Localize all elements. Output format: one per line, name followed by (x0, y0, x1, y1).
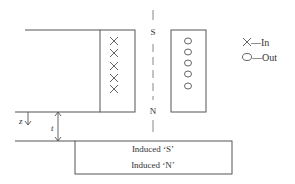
cross-icon (243, 38, 251, 46)
legend-out-label: —Out (251, 52, 277, 63)
z-label: z (18, 116, 23, 126)
induced-n-label: Induced ‘N’ (131, 160, 175, 170)
circle-icon (185, 83, 192, 89)
cross-icon (110, 62, 118, 70)
legend-in: —In (243, 37, 269, 48)
cross-icon (110, 74, 118, 82)
t-label: t (51, 123, 54, 133)
cross-icon (110, 85, 118, 93)
circle-icon (185, 49, 192, 55)
magnetic-levitation-diagram: S N —In —Out z t Induced ‘S’ Induced ‘N’ (0, 0, 295, 184)
legend: —In —Out (243, 37, 278, 63)
left-coil-symbols (110, 37, 118, 93)
induced-s-label: Induced ‘S’ (132, 144, 174, 154)
circle-icon (185, 60, 192, 66)
circle-icon (185, 38, 192, 44)
cross-icon (110, 49, 118, 57)
legend-out: —Out (243, 52, 278, 63)
circle-icon (243, 54, 252, 61)
pole-s-label: S (150, 27, 155, 37)
right-coil-symbols (185, 38, 192, 89)
left-coil-box (100, 30, 135, 112)
cross-icon (110, 37, 118, 45)
circle-icon (185, 71, 192, 77)
t-gap-arrow: t (51, 112, 61, 141)
z-arrow: z (18, 112, 31, 126)
pole-n-label: N (150, 106, 157, 116)
legend-in-label: —In (250, 37, 269, 48)
